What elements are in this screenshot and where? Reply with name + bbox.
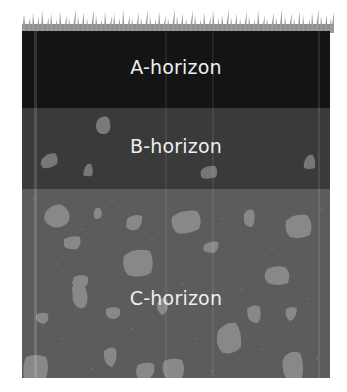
b-horizon-layer: B-horizon xyxy=(22,108,330,189)
grass-surface xyxy=(22,6,334,33)
a-horizon-label: A-horizon xyxy=(22,56,330,78)
c-horizon-layer: C-horizon xyxy=(22,189,330,378)
c-horizon-rocks xyxy=(22,189,330,378)
vertical-stripe xyxy=(318,31,320,378)
c-horizon-label: C-horizon xyxy=(22,287,330,309)
soil-column: A-horizon B-horizon xyxy=(22,31,330,378)
b-horizon-label: B-horizon xyxy=(22,135,330,157)
vertical-stripe xyxy=(165,31,167,378)
vertical-stripe xyxy=(212,31,214,378)
vertical-stripe xyxy=(34,31,37,378)
soil-profile-diagram: A-horizon B-horizon xyxy=(0,0,347,392)
a-horizon-layer: A-horizon xyxy=(22,31,330,108)
